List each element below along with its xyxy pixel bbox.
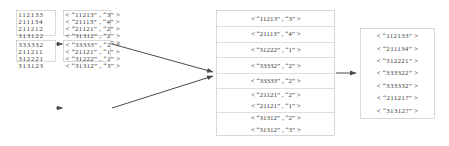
reduce-group: < “31312” , “2” > < “31312” , “3” > <box>217 112 335 135</box>
map-output-box-2: < “33333” , “2” > < “21121” , “1” > < “3… <box>63 40 111 61</box>
reduce-input-row: < “31312” , “3” > <box>217 126 335 134</box>
input-split-row: 313123 <box>18 62 53 69</box>
diagram-scale-wrapper: 112133 211134 211212 313122 333322 33333… <box>0 0 449 146</box>
final-output-row: < “312221” > <box>362 57 432 64</box>
input-split-box-2: 333332 211211 312221 313123 <box>16 40 55 61</box>
reduce-input-row: < “31222” , “1” > <box>217 46 335 54</box>
reduce-group: < “31222” , “1” > <box>217 42 335 58</box>
reduce-group: < “33333” , “2” > <box>217 73 335 89</box>
reduce-input-row: < “21121” , “1” > <box>217 102 335 110</box>
reduce-input-row: < “21121” , “2” > <box>217 91 335 99</box>
final-output-row: < “31312?” > <box>362 107 432 114</box>
reduce-input-box: < “11213” , “3” > < “21113” , “4” > < “3… <box>217 11 335 136</box>
reduce-input-row: < “33333” , “2” > <box>217 77 335 85</box>
final-output-row: < “333322” > <box>362 70 432 77</box>
input-split-box-1: 112133 211134 211212 313122 333322 <box>16 10 55 35</box>
final-output-row: < “333332” > <box>362 82 432 89</box>
reduce-input-row: < “33332” , “2” > <box>217 62 335 70</box>
final-output-row: < “211134” > <box>362 45 432 52</box>
reduce-input-row: < “11213” , “3” > <box>217 15 335 23</box>
reduce-input-row: < “31312” , “2” > <box>217 114 335 122</box>
map-output-row: < “31312” , “3” > <box>65 62 109 69</box>
dataflow-diagram: 112133 211134 211212 313122 333322 33333… <box>0 0 449 146</box>
reduce-input-row: < “21113” , “4” > <box>217 30 335 38</box>
final-output-row: < “112133” > <box>362 33 432 40</box>
final-output-box: < “112133” > < “211134” > < “312221” > <… <box>360 28 435 118</box>
reduce-group: < “21113” , “4” > <box>217 27 335 43</box>
map-output-box-1: < “11213” , “3” > < “21113” , “4” > < “2… <box>63 10 111 35</box>
reduce-group: < “33332” , “2” > <box>217 58 335 74</box>
final-output-row: < “21121?” > <box>362 95 432 102</box>
reduce-group: < “21121” , “2” > < “21121” , “1” > <box>217 89 335 112</box>
reduce-group: < “11213” , “3” > <box>217 11 335 27</box>
